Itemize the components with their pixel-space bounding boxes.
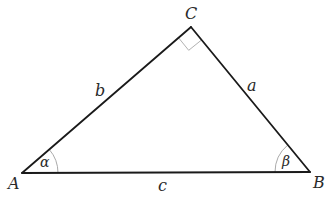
side-label-b: b bbox=[95, 81, 105, 100]
side-label-a: a bbox=[247, 76, 257, 95]
right-angle-marker bbox=[179, 38, 202, 51]
side-a-line bbox=[191, 27, 310, 172]
side-label-c: c bbox=[158, 176, 167, 195]
side-b-line bbox=[22, 27, 191, 173]
alpha-angle-arc bbox=[49, 150, 58, 173]
angle-label-beta: β bbox=[281, 153, 290, 169]
vertex-label-a: A bbox=[6, 174, 20, 193]
angle-label-alpha: α bbox=[40, 154, 50, 170]
vertex-label-b: B bbox=[312, 173, 325, 192]
side-c-line bbox=[22, 172, 310, 173]
triangle-diagram: C A B b a c α β bbox=[0, 0, 334, 209]
vertex-label-c: C bbox=[185, 4, 197, 23]
triangle-canvas: C A B b a c α β bbox=[0, 0, 334, 209]
